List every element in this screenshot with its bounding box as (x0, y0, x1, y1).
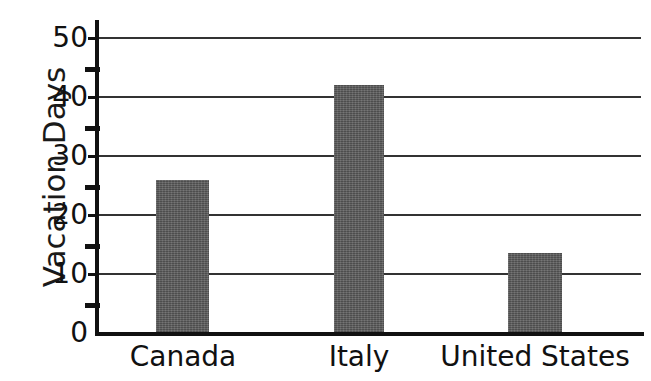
y-tick-minor-25 (85, 185, 100, 190)
y-tick-minor-35 (85, 126, 100, 131)
y-tick-major-40 (88, 96, 98, 99)
y-tick-major-50 (88, 37, 98, 40)
x-axis-line (95, 332, 644, 336)
bar-chart: Vacation Days 0 10 20 30 40 50 Canada It… (0, 0, 651, 381)
bar-italy (334, 85, 384, 333)
x-tick-label-united-states: United States (440, 340, 630, 374)
x-tick-label-italy: Italy (329, 340, 390, 374)
y-tick-major-20 (88, 214, 98, 217)
y-tick-minor-15 (85, 244, 100, 249)
x-tick-label-canada: Canada (130, 340, 237, 374)
y-tick-major-30 (88, 155, 98, 158)
y-tick-minor-5 (85, 303, 100, 308)
y-tick-major-10 (88, 273, 98, 276)
bar-canada (156, 180, 209, 333)
y-tick-minor-45 (85, 67, 100, 72)
bar-united-states (508, 253, 562, 333)
